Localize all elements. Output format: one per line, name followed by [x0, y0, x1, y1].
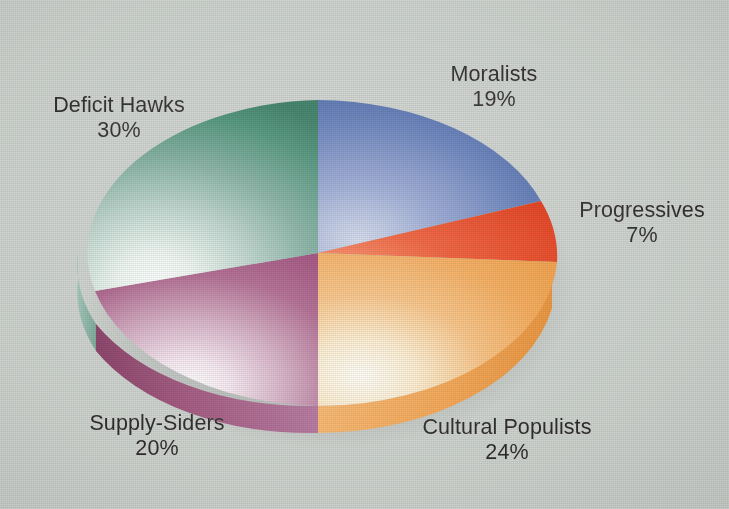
slice-label-supply-siders-value: 20% [52, 436, 262, 461]
slice-label-deficit-hawks-name: Deficit Hawks [53, 93, 185, 117]
slice-label-supply-siders-name: Supply-Siders [89, 411, 224, 435]
slice-label-cultural-populists: Cultural Populists 24% [396, 415, 618, 466]
slice-label-supply-siders: Supply-Siders 20% [52, 411, 262, 462]
slice-label-cultural-populists-name: Cultural Populists [422, 415, 591, 439]
slice-label-progressives-name: Progressives [579, 198, 704, 222]
slice-label-progressives: Progressives 7% [555, 198, 729, 249]
slice-label-progressives-value: 7% [555, 223, 729, 248]
slice-label-moralists-name: Moralists [451, 62, 538, 86]
slice-label-deficit-hawks-value: 30% [14, 118, 224, 143]
slice-label-cultural-populists-value: 24% [396, 440, 618, 465]
slice-label-moralists-value: 19% [404, 87, 584, 112]
slice-label-moralists: Moralists 19% [404, 62, 584, 113]
slice-label-deficit-hawks: Deficit Hawks 30% [14, 93, 224, 144]
pie-chart-figure: Moralists 19% Deficit Hawks 30% Progress… [0, 0, 729, 509]
